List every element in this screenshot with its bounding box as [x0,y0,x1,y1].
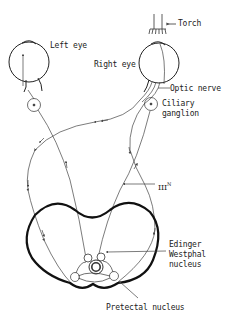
pretectal-leader [120,282,138,298]
left-eye-icon [9,41,49,92]
third-nerve-label: IIIN [158,180,171,192]
edinger-label-2: Westphal [169,250,206,259]
edinger-westphal-nucleus-icon [84,253,105,274]
left-ciliary-ganglion-icon [28,99,41,112]
right-efferent-pathway [98,111,155,258]
edinger-label-1: Edinger [169,240,201,249]
left-eye-label: Left eye [50,41,87,50]
pretectal-label: Pretectal nucleus [106,303,184,312]
left-efferent-pathway [28,90,86,258]
right-eye-label: Right eye [94,60,136,69]
right-afferent-pathway [118,104,155,282]
afferent-pathway [27,100,140,284]
optic-nerve-label: Optic nerve [170,84,221,93]
right-ciliary-ganglion-icon [145,98,158,111]
torch-label: Torch [178,19,201,28]
pupillary-reflex-diagram [0,0,225,319]
edinger-leader [107,251,166,252]
torch-icon [149,14,176,34]
edinger-label-3: nucleus [169,260,201,269]
ciliary-ganglion-label-1: Ciliary [162,99,194,108]
ciliary-ganglion-label-2: ganglion [162,109,199,118]
